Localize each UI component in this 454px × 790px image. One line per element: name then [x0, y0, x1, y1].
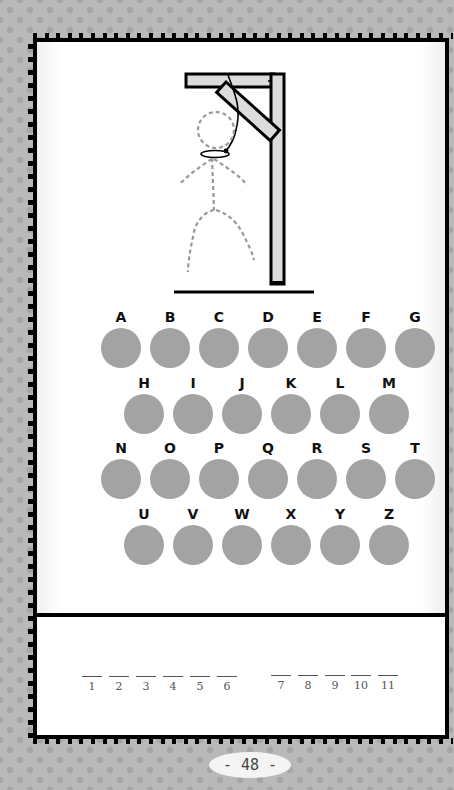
- letter-label: N: [99, 439, 143, 459]
- blank-line: [82, 676, 102, 677]
- blank-line: [109, 676, 129, 677]
- answer-area: 1 2 3 4 5 6 7 8 9 10 11: [37, 617, 445, 735]
- letter-s[interactable]: S: [344, 439, 388, 499]
- blank-line: [190, 676, 210, 677]
- letter-button-z[interactable]: [369, 525, 409, 565]
- blank-number: 1: [82, 681, 102, 693]
- letter-z[interactable]: Z: [367, 505, 411, 565]
- letter-m[interactable]: M: [367, 374, 411, 434]
- letter-button-t[interactable]: [395, 459, 435, 499]
- letter-o[interactable]: O: [148, 439, 192, 499]
- answer-blank[interactable]: 10: [351, 675, 371, 692]
- answer-blank[interactable]: 6: [217, 676, 237, 693]
- letter-label: B: [148, 308, 192, 328]
- letter-b[interactable]: B: [148, 308, 192, 368]
- letter-button-r[interactable]: [297, 459, 337, 499]
- letter-g[interactable]: G: [393, 308, 437, 368]
- hangman-card: A B C D E F G H I J K L M N O P Q R S T: [33, 38, 449, 739]
- letter-button-a[interactable]: [101, 328, 141, 368]
- letter-button-v[interactable]: [173, 525, 213, 565]
- letter-label: F: [344, 308, 388, 328]
- letter-button-y[interactable]: [320, 525, 360, 565]
- letter-label: R: [295, 439, 339, 459]
- answer-blank[interactable]: 3: [136, 676, 156, 693]
- letter-k[interactable]: K: [269, 374, 313, 434]
- letter-q[interactable]: Q: [246, 439, 290, 499]
- letter-button-o[interactable]: [150, 459, 190, 499]
- letter-label: M: [367, 374, 411, 394]
- letter-h[interactable]: H: [122, 374, 166, 434]
- blank-number: 3: [136, 681, 156, 693]
- letter-button-b[interactable]: [150, 328, 190, 368]
- answer-blank[interactable]: 1: [82, 676, 102, 693]
- letter-u[interactable]: U: [122, 505, 166, 565]
- letter-t[interactable]: T: [393, 439, 437, 499]
- letter-button-w[interactable]: [222, 525, 262, 565]
- letter-button-q[interactable]: [248, 459, 288, 499]
- blank-number: 5: [190, 681, 210, 693]
- letter-button-m[interactable]: [369, 394, 409, 434]
- letter-button-l[interactable]: [320, 394, 360, 434]
- letter-label: E: [295, 308, 339, 328]
- letter-c[interactable]: C: [197, 308, 241, 368]
- blank-line: [163, 676, 183, 677]
- letter-button-x[interactable]: [271, 525, 311, 565]
- game-area: A B C D E F G H I J K L M N O P Q R S T: [37, 42, 445, 614]
- letter-button-n[interactable]: [101, 459, 141, 499]
- letter-button-e[interactable]: [297, 328, 337, 368]
- letter-button-i[interactable]: [173, 394, 213, 434]
- letter-v[interactable]: V: [171, 505, 215, 565]
- answer-blank[interactable]: 4: [163, 676, 183, 693]
- blank-number: 4: [163, 681, 183, 693]
- letter-label: Z: [367, 505, 411, 525]
- letter-label: Q: [246, 439, 290, 459]
- letter-f[interactable]: F: [344, 308, 388, 368]
- letter-l[interactable]: L: [318, 374, 362, 434]
- blank-number: 9: [325, 680, 345, 692]
- letter-button-h[interactable]: [124, 394, 164, 434]
- letter-label: G: [393, 308, 437, 328]
- letter-e[interactable]: E: [295, 308, 339, 368]
- blank-line: [136, 676, 156, 677]
- answer-blank[interactable]: 11: [378, 675, 398, 692]
- letter-label: L: [318, 374, 362, 394]
- letter-r[interactable]: R: [295, 439, 339, 499]
- letter-label: U: [122, 505, 166, 525]
- letter-label: I: [171, 374, 215, 394]
- letter-button-d[interactable]: [248, 328, 288, 368]
- answer-blank[interactable]: 9: [325, 675, 345, 692]
- blank-line: [217, 676, 237, 677]
- letter-button-c[interactable]: [199, 328, 239, 368]
- blank-number: 7: [271, 680, 291, 692]
- letter-label: P: [197, 439, 241, 459]
- letter-button-u[interactable]: [124, 525, 164, 565]
- letter-label: C: [197, 308, 241, 328]
- letter-button-s[interactable]: [346, 459, 386, 499]
- letter-i[interactable]: I: [171, 374, 215, 434]
- letter-d[interactable]: D: [246, 308, 290, 368]
- answer-blank[interactable]: 2: [109, 676, 129, 693]
- stick-figure-icon: [179, 112, 254, 272]
- letter-w[interactable]: W: [220, 505, 264, 565]
- letter-button-g[interactable]: [395, 328, 435, 368]
- blank-line: [271, 675, 291, 676]
- answer-blank[interactable]: 5: [190, 676, 210, 693]
- letter-a[interactable]: A: [99, 308, 143, 368]
- letter-label: J: [220, 374, 264, 394]
- letter-p[interactable]: P: [197, 439, 241, 499]
- letter-j[interactable]: J: [220, 374, 264, 434]
- letter-label: X: [269, 505, 313, 525]
- letter-button-f[interactable]: [346, 328, 386, 368]
- answer-blank[interactable]: 7: [271, 675, 291, 692]
- letter-label: T: [393, 439, 437, 459]
- letter-y[interactable]: Y: [318, 505, 362, 565]
- letter-label: H: [122, 374, 166, 394]
- letter-button-k[interactable]: [271, 394, 311, 434]
- letter-x[interactable]: X: [269, 505, 313, 565]
- blank-line: [351, 675, 371, 676]
- letter-button-p[interactable]: [199, 459, 239, 499]
- answer-blank[interactable]: 8: [298, 675, 318, 692]
- letter-button-j[interactable]: [222, 394, 262, 434]
- letter-n[interactable]: N: [99, 439, 143, 499]
- blank-line: [325, 675, 345, 676]
